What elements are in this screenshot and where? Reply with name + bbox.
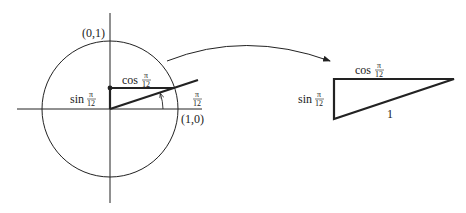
triangle-sin-den: 12	[315, 99, 323, 108]
sin-label-num: π	[89, 90, 93, 99]
angle-label-num: π	[195, 90, 199, 99]
sin-label-fn: sin	[70, 92, 84, 106]
transfer-arrow	[167, 46, 330, 62]
triangle-cos-num: π	[377, 61, 381, 70]
angle-label-den: 12	[193, 99, 201, 108]
label-0-1: (0,1)	[82, 26, 105, 40]
point-dot	[108, 86, 113, 91]
cos-label-num: π	[144, 71, 148, 80]
triangle-sin-fn: sin	[298, 92, 312, 106]
triangle-cos-fn: cos	[355, 63, 371, 77]
triangle-hypotenuse-label: 1	[387, 107, 393, 121]
triangle-cos-den: 12	[375, 70, 383, 79]
triangle-sin-num: π	[317, 90, 321, 99]
unit-circle-diagram: (0,1) (1,0) cos π 12 sin π 12 π 12 cos π…	[0, 0, 466, 213]
cos-label-den: 12	[142, 80, 150, 89]
cos-label-fn: cos	[122, 73, 138, 87]
sin-label-den: 12	[87, 99, 95, 108]
right-triangle	[334, 79, 454, 119]
angle-arc	[161, 94, 164, 109]
label-1-0: (1,0)	[181, 112, 204, 126]
